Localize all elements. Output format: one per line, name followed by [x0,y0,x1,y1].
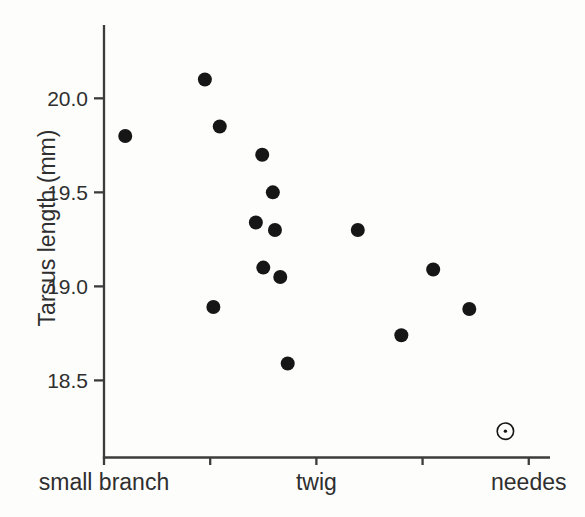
data-point [351,223,365,237]
data-point [255,148,269,162]
x-tick-label: needes [491,469,566,495]
scatter-plot-figure: 20.019.519.018.5small branchtwigneedes T… [0,0,585,517]
data-point [281,356,295,370]
y-axis-title: Tarsus length (mm) [34,130,60,327]
y-tick-label: 18.5 [47,369,88,392]
plot-area: 20.019.519.018.5small branchtwigneedes [39,73,567,495]
x-tick-label: small branch [39,469,169,495]
data-point [256,261,270,275]
data-point [213,120,227,134]
data-point [273,270,287,284]
data-point [118,129,132,143]
scatter-plot: 20.019.519.018.5small branchtwigneedes T… [0,0,585,517]
data-point [426,262,440,276]
data-point [198,73,212,87]
data-point [249,215,263,229]
data-point [266,185,280,199]
outlier-point-center-dot [504,429,507,432]
data-point [206,300,220,314]
y-tick-label: 20.0 [47,87,88,110]
data-point [268,223,282,237]
data-point [394,328,408,342]
data-point [462,302,476,316]
x-tick-label: twig [296,469,337,495]
